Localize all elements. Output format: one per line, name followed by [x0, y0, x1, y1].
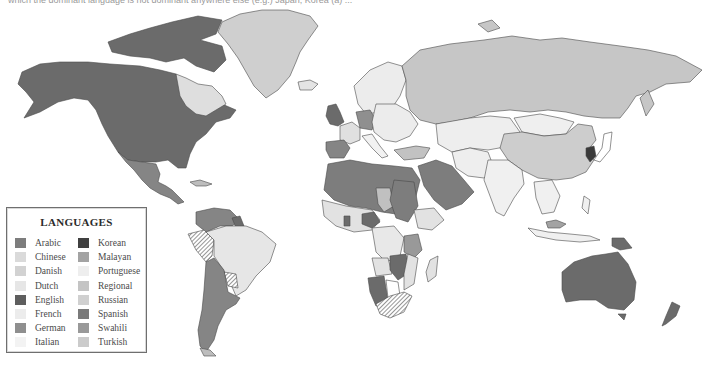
region-madagascar [426, 256, 438, 282]
region-iceland [298, 80, 318, 90]
legend-item-italian: Italian [15, 335, 78, 349]
region-philippines [582, 196, 590, 214]
region-russia [402, 36, 702, 124]
legend-item-turkish: Turkish [78, 335, 141, 349]
legend-item-spanish: Spanish [78, 307, 141, 321]
legend-item-portuguese: Portuguese [78, 264, 141, 278]
legend-label: Korean [98, 238, 126, 248]
legend-label: Italian [35, 337, 59, 347]
swatch-korean [78, 238, 89, 248]
region-indonesia [528, 228, 600, 242]
legend-label: Turkish [98, 337, 127, 347]
region-sudan [390, 180, 418, 222]
legend-label: Regional [98, 281, 132, 291]
legend-item-swahili: Swahili [78, 321, 141, 335]
region-caribbean [190, 180, 212, 186]
swatch-russian [78, 295, 89, 305]
region-novaya-zemlya [478, 20, 500, 32]
legend-item-german: German [15, 321, 78, 335]
legend-label: German [35, 323, 66, 333]
legend-item-french: French [15, 307, 78, 321]
region-swahili [404, 234, 422, 258]
legend-label: Danish [35, 266, 62, 276]
legend-label: French [35, 309, 61, 319]
legend-item-arabic: Arabic [15, 236, 78, 250]
swatch-german [15, 323, 26, 333]
swatch-italian [15, 337, 26, 347]
swatch-portuguese [78, 266, 89, 276]
swatch-danish [15, 266, 26, 276]
region-horn [414, 208, 444, 230]
region-arctic-islands [108, 16, 226, 72]
legend-title: LANGUAGES [7, 216, 146, 228]
legend-item-chinese: Chinese [15, 250, 78, 264]
swatch-dutch [15, 281, 26, 291]
legend-label: Chinese [35, 252, 66, 262]
legend-item-dutch: Dutch [15, 279, 78, 293]
legend-item-danish: Danish [15, 264, 78, 278]
legend-item-malayan: Malayan [78, 250, 141, 264]
region-south-asia [484, 160, 524, 216]
region-southeast-asia [534, 180, 560, 214]
swatch-turkish [78, 337, 89, 347]
region-australia [562, 252, 636, 310]
legend-label: English [35, 295, 64, 305]
legend-label: Dutch [35, 281, 58, 291]
map-legend: LANGUAGES Arabic Chinese Danish Dutch En… [6, 207, 147, 353]
region-tasmania [618, 314, 626, 320]
legend-label: Russian [98, 295, 128, 305]
swatch-arabic [15, 238, 26, 248]
swatch-swahili [78, 323, 89, 333]
legend-items: Arabic Chinese Danish Dutch English Fren… [15, 236, 143, 350]
region-turkey [394, 146, 430, 160]
swatch-malayan [78, 252, 89, 262]
legend-item-regional: Regional [78, 279, 141, 293]
legend-label: Arabic [35, 238, 61, 248]
swatch-english [15, 295, 26, 305]
legend-item-korean: Korean [78, 236, 141, 250]
region-malaysia [546, 220, 566, 228]
legend-label: Portuguese [98, 266, 140, 276]
region-japan [594, 132, 612, 162]
region-papua-new-guinea [612, 238, 632, 250]
region-uk [326, 104, 344, 126]
legend-label: Spanish [98, 309, 128, 319]
swatch-spanish [78, 309, 89, 319]
region-ghana [344, 216, 350, 226]
swatch-chinese [15, 252, 26, 262]
swatch-french [15, 309, 26, 319]
legend-item-english: English [15, 293, 78, 307]
legend-label: Swahili [98, 323, 127, 333]
swatch-regional [78, 281, 89, 291]
legend-item-russian: Russian [78, 293, 141, 307]
legend-label: Malayan [98, 252, 131, 262]
region-new-zealand [662, 302, 680, 326]
